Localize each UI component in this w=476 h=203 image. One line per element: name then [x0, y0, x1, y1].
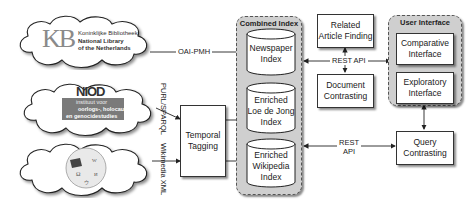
niod-logo-mark: NIOD — [76, 84, 105, 99]
svg-text:ウ: ウ — [84, 179, 89, 185]
query-contrasting-line1: Query — [413, 137, 436, 148]
kb-name-english-2: of the Netherlands — [78, 45, 131, 52]
user-interface-title: User Interface — [389, 18, 461, 27]
edge-label-oai-pmh: OAI-PMH — [176, 47, 212, 56]
kb-name-english-1: National Library — [78, 38, 124, 45]
related-article-line2: Article Finding — [319, 31, 373, 42]
niod-subtitle-3: en genocidestudies — [66, 113, 117, 119]
temporal-tagging-line2: Tagging — [188, 141, 218, 152]
svg-text:Ω: Ω — [76, 171, 81, 177]
wikipedia-index-line2: Wikipedia — [246, 161, 296, 172]
exploratory-interface-line1: Exploratory — [404, 77, 447, 88]
comparative-interface-line2: Interface — [408, 49, 441, 60]
edge-label-wikimedia-xml: Wikimedia XML — [159, 143, 168, 195]
newspaper-index-line1: Newspaper — [246, 43, 296, 54]
edge-label-rest-api-top: REST API — [330, 56, 368, 65]
document-contrasting-line2: Contrasting — [324, 91, 367, 102]
rest-api-bottom-line2: API — [339, 147, 359, 156]
query-contrasting-line2: Contrasting — [403, 148, 446, 159]
source-cloud-niod: NIOD instituut voor oorlogs-, holocaust-… — [18, 80, 158, 138]
loe-de-jong-index-line1: Enriched — [246, 95, 296, 106]
svg-text:И: И — [94, 172, 98, 177]
query-contrasting-box: Query Contrasting — [396, 131, 454, 165]
kb-name-dutch: Koninklijke Bibliotheek — [78, 30, 138, 37]
source-cloud-kb: KB Koninklijke Bibliotheek National Libr… — [14, 12, 154, 70]
comparative-interface-line1: Comparative — [401, 38, 449, 49]
comparative-interface-box: Comparative Interface — [396, 33, 454, 65]
loe-de-jong-index-line3: Index — [246, 117, 296, 128]
related-article-line1: Related — [331, 20, 360, 31]
kb-logo-mark: KB — [42, 24, 74, 54]
combined-index-title: Combined Index — [237, 19, 301, 28]
niod-subtitle-2: oorlogs-, holocaust- — [78, 106, 131, 112]
niod-subtitle-1: instituut voor — [76, 99, 107, 105]
cloud-shape-icon: Ω W И ウ — [14, 140, 154, 198]
loe-de-jong-index-line2: Loe de Jong — [246, 106, 296, 117]
document-contrasting-box: Document Contrasting — [317, 74, 374, 108]
wikipedia-index-line1: Enriched — [246, 150, 296, 161]
svg-text:W: W — [92, 158, 97, 163]
newspaper-index-line2: Index — [246, 54, 296, 65]
source-cloud-wikipedia: Ω W И ウ — [14, 140, 154, 198]
temporal-tagging-line1: Temporal — [186, 130, 221, 141]
related-article-finding-box: Related Article Finding — [317, 14, 374, 48]
wikipedia-globe-icon: Ω W И ウ — [66, 148, 106, 188]
edge-label-purl-sparql: PURL/SPARQL — [159, 83, 168, 135]
wikipedia-index-cylinder: Enriched Wikipedia Index — [246, 138, 296, 188]
exploratory-interface-line2: Interface — [408, 88, 441, 99]
rest-api-bottom-line1: REST — [339, 138, 359, 147]
exploratory-interface-box: Exploratory Interface — [396, 72, 454, 104]
wikipedia-index-line3: Index — [246, 172, 296, 183]
loe-de-jong-index-cylinder: Enriched Loe de Jong Index — [246, 82, 296, 134]
document-contrasting-line1: Document — [326, 80, 365, 91]
edge-label-rest-api-bottom: REST API — [337, 138, 361, 156]
temporal-tagging-box: Temporal Tagging — [180, 105, 226, 177]
newspaper-index-cylinder: Newspaper Index — [246, 28, 296, 76]
